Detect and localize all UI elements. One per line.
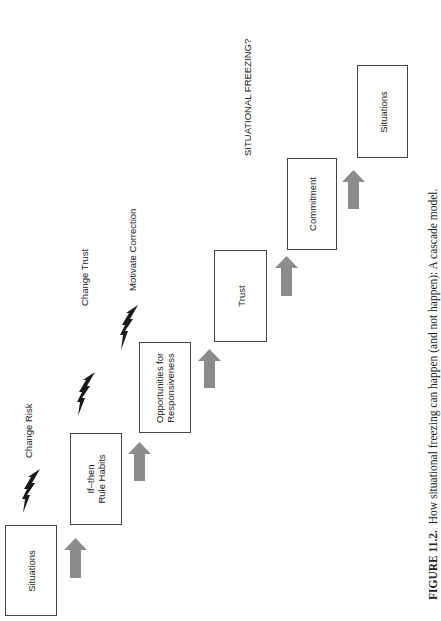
caption-label: FIGURE 11.2. (427, 530, 439, 600)
situational-freezing-note: SITUATIONAL FREEZING? (242, 39, 253, 156)
box-if-then-rule-habits: If–thenRule Habits (70, 433, 122, 525)
lightning-bolt-icon (77, 372, 96, 416)
arrow-up-icon (275, 256, 298, 296)
intervention-label-motivate-correction: Motivate Correction (127, 209, 138, 291)
box-label: Opportunities forResponsiveness (154, 352, 176, 422)
box-situations-start: Situations (5, 525, 57, 616)
lightning-bolt-icon (22, 469, 41, 513)
box-label: If–thenRule Habits (85, 454, 107, 503)
box-situations-end: Situations (357, 65, 408, 158)
box-label: Commitment (307, 177, 318, 231)
box-label: Situations (26, 550, 37, 592)
box-label: Situations (377, 91, 388, 133)
figure-caption: FIGURE 11.2. How situational freezing ca… (427, 189, 439, 600)
arrow-up-icon (198, 349, 221, 388)
box-commitment: Commitment (287, 158, 337, 250)
box-label: Trust (235, 285, 246, 306)
intervention-label-change-risk: Change Risk (23, 404, 34, 458)
box-opportunities-for-responsiveness: Opportunities forResponsiveness (139, 342, 191, 433)
box-trust: Trust (214, 250, 267, 342)
arrow-up-icon (128, 442, 151, 481)
intervention-label-change-trust: Change Trust (79, 249, 90, 306)
caption-text: How situational freezing can happen (and… (427, 189, 439, 525)
lightning-bolt-icon (120, 305, 139, 350)
arrow-up-icon (342, 170, 365, 209)
arrow-up-icon (64, 538, 87, 578)
